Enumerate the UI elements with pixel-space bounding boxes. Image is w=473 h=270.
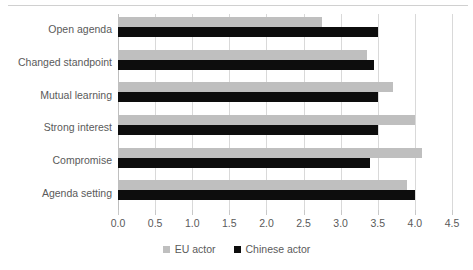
x-tick-mark	[229, 210, 230, 215]
x-tick-label: 2.5	[284, 217, 324, 229]
category-label: Open agenda	[0, 23, 112, 35]
bar-rows	[118, 14, 452, 210]
x-axis-ticks	[118, 210, 452, 216]
x-tick-mark	[341, 210, 342, 215]
x-tick-mark	[155, 210, 156, 215]
x-axis-labels: 0.00.51.01.52.02.53.03.54.04.5	[118, 217, 452, 233]
x-tick-label: 1.0	[172, 217, 212, 229]
x-tick-mark	[378, 210, 379, 215]
x-tick-label: 3.5	[358, 217, 398, 229]
bar-group	[118, 112, 452, 145]
bar-eu-actor	[118, 115, 415, 125]
category-axis-labels: Open agendaChanged standpointMutual lear…	[0, 14, 112, 210]
x-tick-label: 0.5	[135, 217, 175, 229]
bar-group	[118, 177, 452, 210]
bar-chinese-actor	[118, 158, 370, 168]
x-tick-mark	[452, 210, 453, 215]
bar-chinese-actor	[118, 92, 378, 102]
category-label: Compromise	[0, 154, 112, 166]
legend-item[interactable]: Chinese actor	[234, 243, 311, 255]
x-tick-mark	[304, 210, 305, 215]
x-tick-label: 4.0	[395, 217, 435, 229]
bar-group	[118, 145, 452, 178]
x-tick-label: 2.0	[246, 217, 286, 229]
x-tick-mark	[118, 210, 119, 215]
eu-actor-swatch	[163, 246, 170, 253]
bar-group	[118, 79, 452, 112]
chinese-actor-swatch	[234, 246, 241, 253]
legend-label: EU actor	[175, 243, 216, 255]
bar-eu-actor	[118, 82, 393, 92]
category-label: Mutual learning	[0, 89, 112, 101]
legend-label: Chinese actor	[246, 243, 311, 255]
bar-group	[118, 47, 452, 80]
bar-eu-actor	[118, 17, 322, 27]
x-tick-label: 4.5	[432, 217, 472, 229]
gridline-4.5	[452, 14, 453, 210]
chart-legend: EU actorChinese actor	[0, 243, 473, 255]
legend-item[interactable]: EU actor	[163, 243, 216, 255]
bar-chinese-actor	[118, 60, 374, 70]
plot-area	[118, 14, 452, 210]
bar-eu-actor	[118, 50, 367, 60]
category-label: Changed standpoint	[0, 56, 112, 68]
category-label: Agenda setting	[0, 187, 112, 199]
bar-eu-actor	[118, 148, 422, 158]
bar-group	[118, 14, 452, 47]
x-tick-label: 0.0	[98, 217, 138, 229]
x-tick-label: 3.0	[321, 217, 361, 229]
x-tick-mark	[266, 210, 267, 215]
bar-chinese-actor	[118, 125, 378, 135]
x-tick-mark	[415, 210, 416, 215]
bar-chinese-actor	[118, 190, 415, 200]
bar-chart: Open agendaChanged standpointMutual lear…	[0, 0, 473, 270]
x-tick-label: 1.5	[209, 217, 249, 229]
x-tick-mark	[192, 210, 193, 215]
top-divider	[8, 5, 468, 6]
bar-chinese-actor	[118, 27, 378, 37]
bar-eu-actor	[118, 180, 407, 190]
category-label: Strong interest	[0, 121, 112, 133]
